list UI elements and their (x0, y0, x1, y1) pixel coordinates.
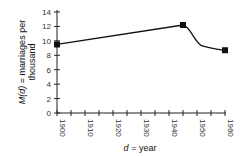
y-tick-label: 0 (47, 109, 52, 118)
y-axis-label-rest: = marriages per (17, 20, 27, 86)
y-tick-label: 6 (47, 66, 52, 75)
x-tick-label: 1920 (114, 119, 123, 137)
y-axis-label-line2: thousand (27, 43, 37, 80)
x-axis-label-rest: = year (129, 143, 157, 153)
x-tick-label: 1950 (198, 119, 207, 137)
data-markers (54, 22, 228, 53)
x-tick-label: 1930 (142, 119, 151, 137)
x-axis-title: d = year (124, 143, 157, 153)
data-point-marker (222, 47, 228, 53)
x-tick-label: 1910 (86, 119, 95, 137)
data-point-marker (180, 22, 186, 28)
x-tick-label: 1940 (170, 119, 179, 137)
y-tick-label: 14 (42, 8, 51, 17)
data-line (57, 25, 225, 50)
y-tick-label: 12 (42, 22, 51, 31)
y-axis-variable: M(d) (17, 86, 27, 105)
line-chart: 02468101214 1900191019201930194019501960… (0, 0, 242, 156)
y-axis-title: M(d) = marriages per thousand (17, 20, 37, 104)
y-tick-label: 2 (47, 95, 52, 104)
y-tick-label: 4 (47, 80, 52, 89)
data-point-marker (54, 41, 60, 47)
x-tick-label: 1900 (58, 119, 67, 137)
y-tick-label: 10 (42, 37, 51, 46)
x-axis: 1900191019201930194019501960 (57, 110, 235, 137)
x-tick-label: 1960 (226, 119, 235, 137)
y-tick-label: 8 (47, 51, 52, 60)
svg-text:M(d) = marriages per: M(d) = marriages per (17, 20, 27, 104)
y-axis: 02468101214 (42, 8, 60, 118)
